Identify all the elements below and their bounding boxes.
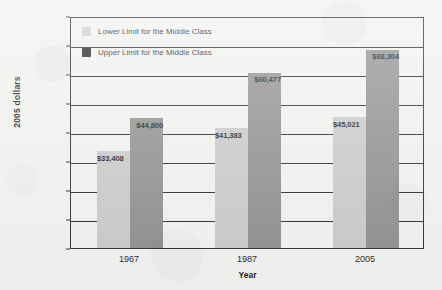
legend-label-upper-limit: Upper Limit for the Middle Class	[98, 48, 212, 57]
bar-lower-2005: $45,021	[333, 117, 366, 248]
bar-chart-figure: 2005 dollars Year $33,408$44,800$41,383$…	[0, 0, 442, 290]
bar-group: $45,021$68,304	[333, 18, 399, 248]
bar-value-label: $33,408	[97, 154, 124, 163]
y-axis-tick-mark	[66, 133, 70, 134]
bar-value-label: $68,304	[372, 52, 399, 61]
bar-value-label: $41,383	[215, 131, 242, 140]
x-axis-title: Year	[70, 270, 425, 280]
y-axis-tick-mark	[66, 75, 70, 76]
x-axis-category-label: 2005	[325, 254, 405, 264]
x-axis-category-label: 1987	[207, 254, 287, 264]
legend-label-lower-limit: Lower Limit for the Middle Class	[98, 27, 212, 36]
bar-upper-1987: $60,477	[248, 73, 281, 248]
y-axis-tick-mark	[66, 17, 70, 18]
y-axis-tick-mark	[66, 104, 70, 105]
bar-upper-2005: $68,304	[366, 50, 399, 248]
bar-upper-1967: $44,800	[130, 118, 163, 248]
y-axis-title: 2005 dollars	[12, 47, 22, 157]
bar-value-label: $44,800	[136, 121, 163, 130]
legend-item-lower-limit: Lower Limit for the Middle Class	[82, 23, 212, 40]
y-axis-tick-mark	[66, 249, 70, 250]
chart-legend: Lower Limit for the Middle Class Upper L…	[82, 23, 212, 65]
legend-item-upper-limit: Upper Limit for the Middle Class	[82, 44, 212, 61]
bar-value-label: $45,021	[333, 120, 360, 129]
bar-value-label: $60,477	[254, 75, 281, 84]
legend-swatch-upper-limit-icon	[82, 48, 91, 57]
bar-lower-1967: $33,408	[97, 151, 130, 248]
bar-lower-1987: $41,383	[215, 128, 248, 248]
y-axis-tick-mark	[66, 191, 70, 192]
y-axis-tick-mark	[66, 162, 70, 163]
bar-group: $41,383$60,477	[215, 18, 281, 248]
x-axis-category-label: 1967	[89, 254, 169, 264]
y-axis-tick-mark	[66, 220, 70, 221]
legend-swatch-lower-limit-icon	[82, 27, 91, 36]
y-axis-tick-mark	[66, 46, 70, 47]
